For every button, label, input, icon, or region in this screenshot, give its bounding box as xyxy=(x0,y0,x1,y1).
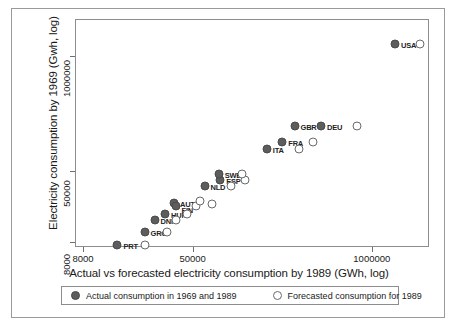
data-point-forecast xyxy=(171,215,180,224)
data-point-forecast xyxy=(140,240,149,249)
chart-legend: Actual consumption in 1969 and 1989 Fore… xyxy=(61,286,399,305)
data-point-forecast xyxy=(309,137,318,146)
data-point-forecast xyxy=(196,197,205,206)
data-point-label: PRT xyxy=(123,241,137,250)
x-tick-mark xyxy=(372,247,373,252)
y-axis-title: Electricity consumption by 1969 (Gwh, lo… xyxy=(47,8,59,238)
data-point-forecast xyxy=(208,199,217,208)
data-point-actual xyxy=(140,228,149,237)
data-point-label: ITA xyxy=(273,145,284,154)
legend-item-forecast: Forecasted consumption for 1989 xyxy=(273,291,422,301)
data-point-forecast xyxy=(353,122,362,131)
data-point-actual xyxy=(316,122,325,131)
y-tick-label: 1000000 xyxy=(61,55,72,101)
legend-label-forecast: Forecasted consumption for 1989 xyxy=(288,291,422,301)
data-point-actual xyxy=(214,169,223,178)
y-tick-label: 50000 xyxy=(61,171,72,217)
chart-figure: Electricity consumption by 1969 (Gwh, lo… xyxy=(11,8,445,318)
x-tick-mark xyxy=(83,247,84,252)
data-point-label: GBR xyxy=(301,123,317,132)
data-point-actual xyxy=(200,181,209,190)
x-tick-label: 8000 xyxy=(72,253,93,264)
data-point-forecast xyxy=(294,144,303,153)
data-point-actual xyxy=(262,144,271,153)
data-point-forecast xyxy=(162,228,171,237)
plot-area: PRTGRCDNKHUNAUTFINNLDESPSWEITAFRAGBRDEUU… xyxy=(75,19,429,247)
data-point-forecast xyxy=(226,181,235,190)
x-tick-label: 1000000 xyxy=(353,253,390,264)
data-point-forecast xyxy=(237,169,246,178)
filled-circle-icon xyxy=(71,291,80,300)
data-point-forecast xyxy=(183,209,192,218)
data-point-label: USA xyxy=(401,40,416,49)
data-point-actual xyxy=(290,122,299,131)
data-point-forecast xyxy=(416,39,425,48)
x-tick-mark xyxy=(193,247,194,252)
data-point-actual xyxy=(391,39,400,48)
x-axis-title: Actual vs forecasted electricity consump… xyxy=(12,267,446,279)
data-point-actual xyxy=(161,209,170,218)
open-circle-icon xyxy=(273,291,282,300)
data-point-label: DEU xyxy=(327,123,342,132)
y-tick-label: 8000 xyxy=(61,241,72,287)
data-point-actual xyxy=(171,201,180,210)
data-point-actual xyxy=(278,137,287,146)
data-point-actual xyxy=(113,240,122,249)
legend-label-actual: Actual consumption in 1969 and 1989 xyxy=(86,291,237,301)
legend-item-actual: Actual consumption in 1969 and 1989 xyxy=(71,291,237,301)
data-point-actual xyxy=(150,215,159,224)
x-tick-label: 50000 xyxy=(179,253,205,264)
